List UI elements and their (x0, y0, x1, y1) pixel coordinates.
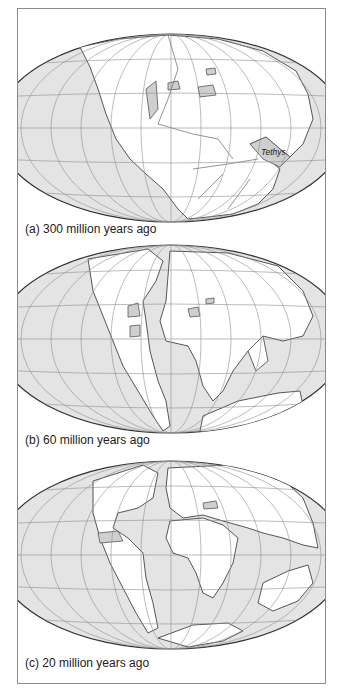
caption-60-mya: (b) 60 million years ago (25, 433, 150, 447)
caption-20-mya: (c) 20 million years ago (25, 656, 149, 670)
inland-sea (130, 325, 140, 337)
inland-lake (168, 81, 180, 90)
caption-300-mya: (a) 300 million years ago (25, 222, 156, 236)
tethys-label: Tethys (261, 147, 286, 157)
panel-300-mya: Tethys (a) 300 million years ago (18, 9, 326, 241)
inland-lake (206, 68, 216, 75)
panel-20-mya: (c) 20 million years ago (18, 453, 326, 684)
world-map-60-mya (18, 241, 326, 453)
world-map-20-mya (18, 453, 326, 665)
world-map-300-mya: Tethys (18, 9, 326, 241)
inland-sea (98, 531, 123, 543)
inland-sea (188, 307, 200, 317)
inland-lake (198, 85, 216, 97)
panel-60-mya: (b) 60 million years ago (18, 241, 326, 453)
inland-sea (128, 303, 140, 317)
inland-lake (206, 298, 214, 304)
figure-frame: Tethys (a) 300 million years ago (17, 8, 326, 684)
